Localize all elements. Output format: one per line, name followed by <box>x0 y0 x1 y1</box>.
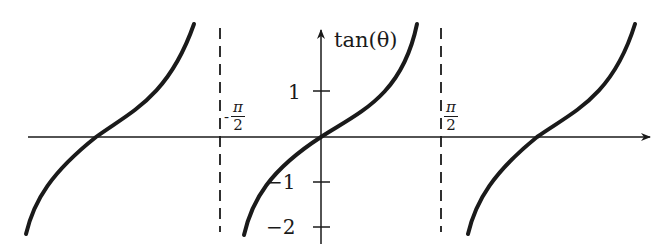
pi-numerator: π <box>231 100 245 115</box>
y-tick-label-minus1: −1 <box>266 172 295 192</box>
y-tick-label-minus2: −2 <box>266 217 295 237</box>
tangent-plot <box>0 0 665 249</box>
pi-numerator: π <box>444 100 458 115</box>
tan-curve-right <box>468 24 635 234</box>
neg-sign: - <box>224 110 229 125</box>
tan-curve-center <box>244 24 417 235</box>
neg-half-pi-label: π 2 <box>231 100 245 133</box>
two-denominator: 2 <box>444 118 458 133</box>
y-axis-label: tan(θ) <box>334 30 398 51</box>
y-tick-label-1: 1 <box>288 82 301 102</box>
tan-curve-left <box>26 24 194 234</box>
half-pi-label: π 2 <box>444 100 458 133</box>
two-denominator: 2 <box>231 118 245 133</box>
